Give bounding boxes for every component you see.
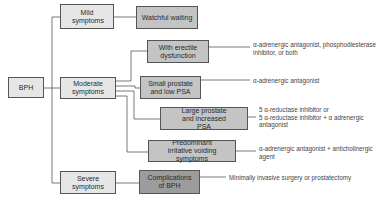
bph-root-node: BPH xyxy=(8,77,44,98)
irritative-voiding-node: Predominant irritative voiding symptoms xyxy=(148,140,236,162)
severe-symptoms-node: Severe symptoms xyxy=(60,171,116,194)
large-prostate-treatment-note: 5 α-reductase inhibitor or 5 α-reductase… xyxy=(259,106,364,129)
mild-symptoms-node: Mild symptoms xyxy=(60,4,114,29)
mild-symptoms-label: Mild symptoms xyxy=(72,9,102,25)
severe-symptoms-label: Severe symptoms xyxy=(63,175,113,191)
erectile-treatment-note: α-adrenergic antagonist, phosphodiestera… xyxy=(253,41,376,56)
erectile-treatment-line-2: inhibitor, or both xyxy=(253,49,376,57)
moderate-symptoms-node: Moderate symptoms xyxy=(60,77,116,99)
erectile-dysfunction-label: With erectile dysfunction xyxy=(158,44,198,60)
large-prostate-treatment-line-3: antagonist xyxy=(259,121,364,129)
complications-node: Complications of BPH xyxy=(139,170,200,194)
irritative-voiding-treatment-line-1: α-adrenergic antagonist + anticholinergi… xyxy=(259,145,373,153)
small-prostate-treatment-note: α-adrenergic antagonist xyxy=(253,77,319,85)
irritative-voiding-label: Predominant irritative voiding symptoms xyxy=(161,139,223,163)
complications-treatment-note: Minimally invasive surgery or prostatect… xyxy=(229,174,351,182)
irritative-voiding-treatment-line-2: agent xyxy=(259,153,373,161)
small-prostate-node: Small prostate and low PSA xyxy=(140,76,201,99)
complications-treatment-line: Minimally invasive surgery or prostatect… xyxy=(229,174,351,182)
large-prostate-label: Large prostate and increased PSA xyxy=(176,107,232,131)
bph-label: BPH xyxy=(19,84,33,92)
watchful-waiting-label: Watchful waiting xyxy=(142,14,193,22)
moderate-symptoms-label: Moderate symptoms xyxy=(70,80,106,96)
large-prostate-treatment-line-2: 5 α-reductase inhibitor + α adrenergic xyxy=(259,114,364,122)
erectile-dysfunction-node: With erectile dysfunction xyxy=(147,40,209,63)
erectile-treatment-line-1: α-adrenergic antagonist, phosphodiestera… xyxy=(253,41,376,49)
irritative-voiding-treatment-note: α-adrenergic antagonist + anticholinergi… xyxy=(259,145,373,160)
large-prostate-treatment-line-1: 5 α-reductase inhibitor or xyxy=(259,106,364,114)
large-prostate-node: Large prostate and increased PSA xyxy=(160,107,248,130)
small-prostate-treatment-line: α-adrenergic antagonist xyxy=(253,77,319,85)
watchful-waiting-node: Watchful waiting xyxy=(136,6,198,29)
complications-label: Complications of BPH xyxy=(145,174,195,190)
small-prostate-label: Small prostate and low PSA xyxy=(147,80,195,96)
